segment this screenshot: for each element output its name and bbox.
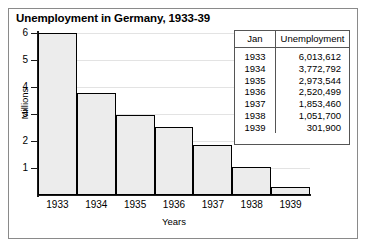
table-cell-value: 2,520,499 (276, 86, 350, 98)
table-header-unemployment: Unemployment (276, 31, 350, 48)
table-header-row: Jan Unemployment (235, 31, 349, 48)
bar-1939 (271, 187, 310, 195)
y-axis-tick (31, 114, 37, 115)
bar-1937 (193, 145, 232, 195)
table-cell-year: 1933 (235, 48, 276, 63)
table-row: 19371,853,460 (235, 98, 349, 110)
x-axis-tick-label: 1938 (232, 199, 271, 210)
chart-title: Unemployment in Germany, 1933-39 (16, 12, 210, 24)
table-cell-year: 1938 (235, 110, 276, 122)
table-cell-value: 1,853,460 (276, 98, 350, 110)
y-axis-tick-label: 4 (0, 82, 28, 92)
table-cell-value: 1,051,700 (276, 110, 350, 122)
table-cell-value: 6,013,612 (276, 48, 350, 63)
table-cell-year: 1939 (235, 121, 276, 133)
bar-1936 (155, 127, 194, 195)
table-row: 19352,973,544 (235, 74, 349, 86)
table-cell-value: 3,772,792 (276, 62, 350, 74)
table-row: 19343,772,792 (235, 62, 349, 74)
table-cell-year: 1934 (235, 62, 276, 74)
y-axis-tick-label: 5 (0, 55, 28, 65)
y-axis-tick-label: 6 (0, 28, 28, 38)
y-axis-tick-label: 2 (0, 136, 28, 146)
table-row: 19381,051,700 (235, 110, 349, 122)
bar-1938 (232, 167, 271, 195)
y-axis-tick (31, 87, 37, 88)
y-axis-tick (31, 60, 37, 61)
x-axis-tick-label: 1934 (77, 199, 116, 210)
x-axis-tick-label: 1939 (271, 199, 310, 210)
table-row: 19362,520,499 (235, 86, 349, 98)
bar-1935 (116, 115, 155, 195)
y-axis-tick-label: 1 (0, 163, 28, 173)
chart-figure: Unemployment in Germany, 1933-39 Million… (0, 0, 366, 247)
x-axis-tick-label: 1937 (193, 199, 232, 210)
table-cell-value: 2,973,544 (276, 74, 350, 86)
y-axis-tick (31, 33, 37, 34)
y-axis-tick (31, 141, 37, 142)
bar-1934 (77, 93, 116, 195)
x-axis-tick-label: 1936 (155, 199, 194, 210)
table-cell-year: 1937 (235, 98, 276, 110)
x-axis-title: Years (38, 216, 310, 227)
y-axis-tick (31, 168, 37, 169)
table-header-jan: Jan (235, 31, 276, 48)
table-row: 19336,013,612 (235, 48, 349, 63)
x-axis-tick-label: 1935 (116, 199, 155, 210)
data-table: Jan Unemployment 19336,013,61219343,772,… (234, 30, 350, 145)
table-cell-value: 301,900 (276, 121, 350, 133)
table-cell-year: 1935 (235, 74, 276, 86)
x-axis-tick-label: 1933 (38, 199, 77, 210)
bar-1933 (38, 33, 77, 195)
y-axis-tick-label: 3 (0, 109, 28, 119)
table-row: 1939301,900 (235, 121, 349, 133)
table-cell-year: 1936 (235, 86, 276, 98)
